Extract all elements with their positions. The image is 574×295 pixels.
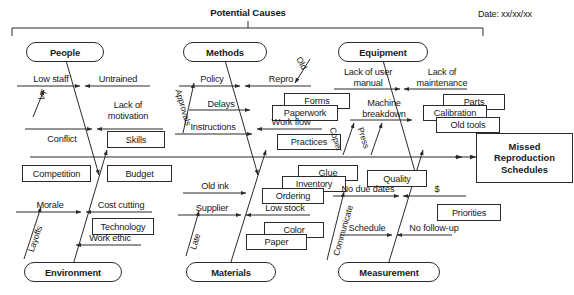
cause-budget-label: Budget xyxy=(125,169,153,179)
fishbone-diagram: Potential Causes Date: xx/xx/xx Missed R… xyxy=(0,0,574,295)
cause-technology-label: Technology xyxy=(101,222,146,232)
category-materials[interactable]: Materials xyxy=(186,262,276,282)
cause-dollar: $ xyxy=(435,184,440,195)
cause-old-tools: Old tools xyxy=(436,117,500,133)
cause-low-staff: Low staff xyxy=(33,74,68,85)
cause-repro: Repro xyxy=(269,74,293,85)
effect-line-3: Schedules xyxy=(501,164,548,176)
cause-delays: Delays xyxy=(207,99,234,110)
cause-instructions: Instructions xyxy=(190,122,235,133)
cause-skills: Skills xyxy=(107,131,165,148)
cause-conflict: Conflict xyxy=(47,134,76,145)
cause-no-follow-up: No follow-up xyxy=(409,223,458,234)
category-methods[interactable]: Methods xyxy=(183,42,267,62)
category-measurement[interactable]: Measurement xyxy=(338,262,440,282)
cause-lack-of-maintenance: Lack of maintenance xyxy=(408,67,476,88)
cause-paper: Paper xyxy=(246,234,307,250)
cause-budget: Budget xyxy=(107,165,172,182)
category-materials-label: Materials xyxy=(211,267,251,278)
cause-ordering-label: Ordering xyxy=(276,191,311,201)
cause-priorities-label: Priorities xyxy=(452,208,486,218)
category-people[interactable]: People xyxy=(26,42,104,62)
effect-line-1: Missed xyxy=(509,141,541,153)
cause-quality-label: Quality xyxy=(383,174,411,184)
cause-no-due-dates: No due dates xyxy=(342,184,395,195)
page-title: Potential Causes xyxy=(210,8,286,19)
effect-line-2: Reproduction xyxy=(494,152,555,164)
cause-cost-cutting: Cost cutting xyxy=(98,200,145,211)
cause-old-ink: Old ink xyxy=(201,181,229,192)
category-measurement-label: Measurement xyxy=(359,267,418,278)
category-methods-label: Methods xyxy=(206,47,244,58)
effect-box: Missed Reproduction Schedules xyxy=(476,133,573,183)
category-equipment[interactable]: Equipment xyxy=(338,42,428,62)
cause-skills-label: Skills xyxy=(126,135,147,145)
category-people-label: People xyxy=(50,47,80,58)
cause-untrained: Untrained xyxy=(99,74,138,85)
date-label: Date: xx/xx/xx xyxy=(478,9,532,20)
cause-morale: Morale xyxy=(36,200,63,211)
cause-work-ethic: Work ethic xyxy=(89,233,131,244)
cause-paper-label: Paper xyxy=(265,237,289,247)
cause-work-flow: Work flow xyxy=(272,117,311,128)
cause-machine-breakdown: Machine breakdown xyxy=(352,98,416,119)
cause-policy: Policy xyxy=(200,74,224,85)
cause-lack-of-user-manual: Lack of user manual xyxy=(335,67,401,88)
cause-old-tools-label: Old tools xyxy=(451,120,486,130)
category-environment-label: Environment xyxy=(45,267,101,278)
category-environment[interactable]: Environment xyxy=(24,262,122,282)
cause-competition: Competition xyxy=(22,165,91,182)
cause-practices-label: Practices xyxy=(291,137,327,147)
cause-schedule: Schedule xyxy=(348,223,385,234)
cause-ordering: Ordering xyxy=(262,188,324,204)
category-equipment-label: Equipment xyxy=(359,47,407,58)
cause-priorities: Priorities xyxy=(437,204,501,221)
cause-lack-of-motivation: Lack of motivation xyxy=(94,100,162,121)
cause-low-stock: Low stock xyxy=(265,203,305,214)
cause-competition-label: Competition xyxy=(33,169,80,179)
cause-supplier: Supplier xyxy=(196,203,229,214)
